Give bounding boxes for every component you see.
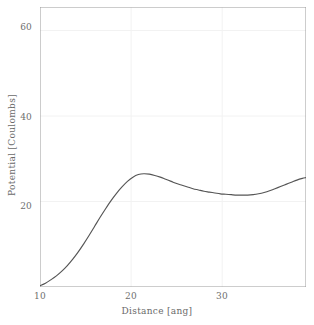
axis-frame <box>40 7 306 287</box>
plot-area <box>40 7 306 287</box>
data-line-potential <box>40 174 306 286</box>
gridlines <box>40 7 306 287</box>
axis-ticks <box>40 31 268 287</box>
y-tick-label-60: 60 <box>6 22 32 32</box>
chart-figure: 60 40 20 10 20 30 Distance [ang] Potenti… <box>0 0 314 325</box>
plot-svg <box>40 7 306 287</box>
x-tick-label-10: 10 <box>26 291 54 301</box>
x-tick-label-20: 20 <box>117 291 145 301</box>
x-tick-label-30: 30 <box>208 291 236 301</box>
y-axis-title: Potential [Coulombs] <box>7 65 17 225</box>
x-axis-title: Distance [ang] <box>0 306 314 316</box>
